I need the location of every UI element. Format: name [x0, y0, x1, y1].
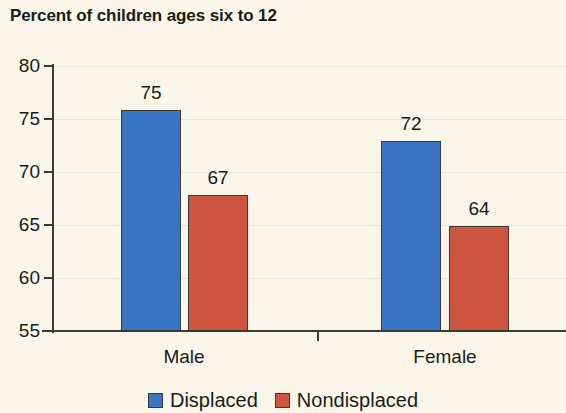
x-tick-mark-mid	[317, 332, 319, 341]
bar-value-female-nondisplaced: 64	[449, 198, 509, 220]
x-category-label-female: Female	[385, 346, 505, 368]
y-axis-line	[52, 64, 54, 333]
y-tick-label-65: 65	[0, 214, 40, 236]
bar-female-displaced[interactable]	[381, 141, 441, 331]
y-tick-mark-75	[44, 118, 54, 120]
legend-entry-nondisplaced[interactable]: Nondisplaced	[275, 389, 418, 412]
bar-value-female-displaced: 72	[381, 113, 441, 135]
gridline-80	[52, 66, 566, 67]
bar-chart: Percent of children ages six to 12 80 75…	[0, 0, 566, 413]
chart-title: Percent of children ages six to 12	[10, 6, 277, 26]
y-tick-mark-65	[44, 224, 54, 226]
y-tick-mark-60	[44, 277, 54, 279]
legend-entry-displaced[interactable]: Displaced	[148, 389, 258, 412]
y-tick-label-70: 70	[0, 161, 40, 183]
bar-value-male-displaced: 75	[121, 82, 181, 104]
legend-label-displaced: Displaced	[170, 389, 258, 412]
y-tick-label-80: 80	[0, 55, 40, 77]
y-tick-mark-80	[44, 65, 54, 67]
legend-swatch-nondisplaced	[275, 393, 290, 408]
bar-male-nondisplaced[interactable]	[188, 195, 248, 331]
x-category-label-male: Male	[124, 346, 244, 368]
bar-male-displaced[interactable]	[121, 110, 181, 331]
y-tick-label-75: 75	[0, 108, 40, 130]
y-tick-label-55: 55	[0, 320, 40, 342]
legend-swatch-displaced	[148, 393, 163, 408]
y-tick-mark-55	[44, 330, 54, 332]
bar-female-nondisplaced[interactable]	[449, 226, 509, 331]
y-tick-label-60: 60	[0, 267, 40, 289]
y-tick-mark-70	[44, 171, 54, 173]
bar-value-male-nondisplaced: 67	[188, 167, 248, 189]
legend-label-nondisplaced: Nondisplaced	[297, 389, 418, 412]
chart-legend: Displaced Nondisplaced	[0, 389, 566, 412]
